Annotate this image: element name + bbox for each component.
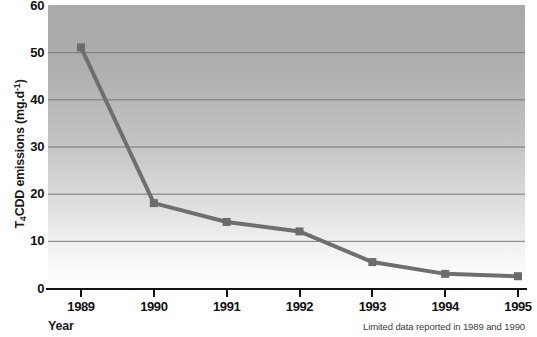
x-axis-tick-1990: 1990 [119,299,189,314]
y-axis-tick-10: 10 [2,234,44,247]
y-axis-tick-60: 60 [2,0,44,12]
y-axis-tick-20: 20 [2,187,44,200]
x-axis-tick-1989: 1989 [46,299,116,314]
data-point-1989 [77,43,85,51]
plot-area [48,5,525,288]
x-axis-tickmark-1992 [299,290,301,297]
x-axis-tick-1994: 1994 [410,299,480,314]
data-point-1990 [150,199,158,207]
x-axis-tick-1995: 1995 [483,299,537,314]
data-point-1991 [223,218,231,226]
x-axis-line [46,288,527,290]
x-axis-tickmark-1991 [226,290,228,297]
plot-svg [48,5,525,288]
x-axis-tick-1992: 1992 [265,299,335,314]
y-axis-tick-30: 30 [2,140,44,153]
data-point-1994 [441,270,449,278]
chart-annotation-note: Limited data reported in 1989 and 1990 [363,321,525,332]
data-line-series-1 [81,47,518,276]
x-axis-tickmark-1995 [517,290,519,297]
y-axis-tick-40: 40 [2,93,44,106]
data-point-1993 [368,258,376,266]
data-point-1995 [514,272,522,280]
x-axis-tickmark-1994 [444,290,446,297]
y-axis-tick-50: 50 [2,46,44,59]
gridlines [48,6,525,242]
x-axis-tick-1991: 1991 [192,299,262,314]
data-markers [77,43,522,280]
x-axis-tickmark-1993 [371,290,373,297]
x-axis-label: Year [48,319,74,333]
data-point-1992 [296,227,304,235]
x-axis-tick-1993: 1993 [337,299,407,314]
x-axis-tickmark-1989 [80,290,82,297]
x-axis-tickmark-1990 [153,290,155,297]
y-axis-tick-labels: 0102030405060 [0,0,44,337]
y-axis-tick-0: 0 [2,282,44,295]
